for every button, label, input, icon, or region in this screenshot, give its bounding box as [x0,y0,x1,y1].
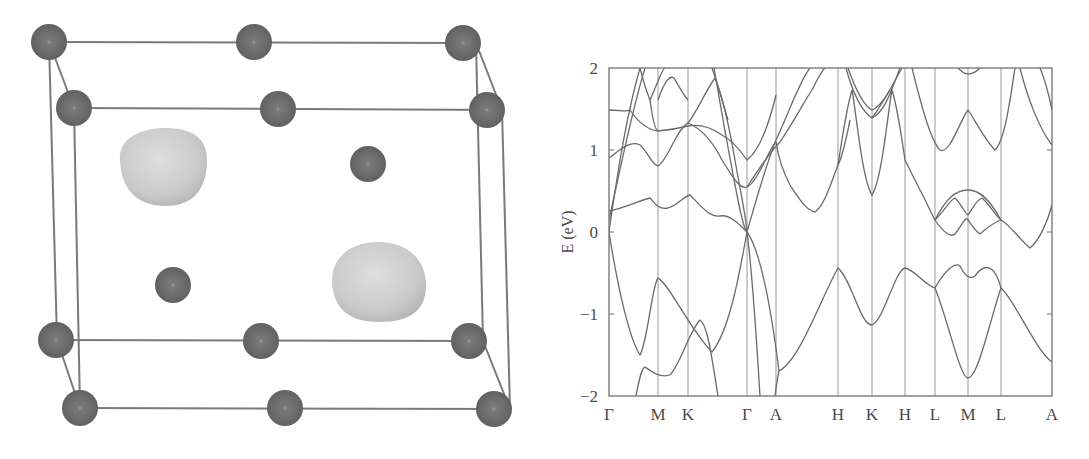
crystal-structure-diagram [0,0,540,459]
kpoint-label: M [960,405,975,424]
kpoint-label: K [682,405,695,424]
band-curves [609,68,1052,396]
atom [451,323,487,359]
isosurface-lobe-upper-left [120,128,207,206]
y-axis-ticks [609,150,1052,314]
atom [236,24,272,60]
band-structure-chart: 2 1 0 −1 −2 E (eV) Γ M K Γ A H K H L M L… [540,0,1089,459]
kpoint-label: A [770,405,783,424]
y-axis-labels: 2 1 0 −1 −2 [580,59,598,406]
y-tick-label: −1 [580,305,598,324]
y-tick-label: 1 [590,141,599,160]
kpoint-label: Γ [604,405,614,424]
kpoint-label: M [650,405,665,424]
kpoint-label: H [832,405,844,424]
kpoint-label: K [866,405,879,424]
plot-frame [609,68,1052,396]
atoms [31,24,512,427]
atom [469,92,505,128]
atom [350,146,386,182]
atom [267,390,303,426]
atom [243,323,279,359]
atom [260,91,296,127]
kpoint-label: L [930,405,940,424]
atom [155,267,191,303]
atom [445,25,481,61]
kpoint-label: Γ [742,405,752,424]
atom [62,390,98,426]
atom [31,24,67,60]
kpoint-label: H [899,405,911,424]
kpoint-label: L [996,405,1006,424]
y-axis-title: E (eV) [559,210,577,253]
atom [38,322,74,358]
atom [56,90,92,126]
kpath-labels: Γ M K Γ A H K H L M L A [604,405,1059,424]
atom [476,391,512,427]
isosurface-lobe-lower-right [332,242,426,322]
y-tick-label: 2 [590,59,599,78]
y-tick-label: −2 [580,387,598,406]
y-tick-label: 0 [590,223,599,242]
kpoint-label: A [1046,405,1059,424]
